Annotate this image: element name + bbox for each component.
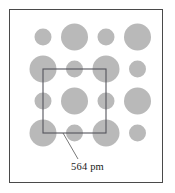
large-ion-circle (124, 24, 151, 51)
small-ion-circle (129, 125, 146, 142)
ion-circles-group (30, 24, 152, 147)
small-ion-circle (35, 29, 52, 46)
dimension-label: 564 pm (0, 161, 175, 173)
crystal-lattice-figure: 564 pm (0, 0, 175, 193)
large-ion-circle (124, 88, 151, 115)
small-ion-circle (98, 29, 115, 46)
small-ion-circle (129, 61, 146, 78)
large-ion-circle (61, 24, 88, 51)
large-ion-circle (61, 88, 88, 115)
